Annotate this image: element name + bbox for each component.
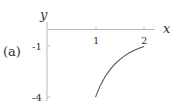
x-tick-label-2: 2	[141, 35, 147, 46]
y-tick-label-neg4: -4	[32, 92, 42, 103]
chart-figure: y x 1 2 -1 -4 (a)	[0, 0, 179, 105]
x-axis-label: x	[163, 21, 171, 36]
panel-label: (a)	[3, 44, 21, 59]
data-curve	[96, 46, 145, 97]
y-tick-label-neg1: -1	[32, 41, 42, 52]
x-tick-label-1: 1	[93, 35, 99, 46]
y-axis-label: y	[39, 7, 48, 22]
